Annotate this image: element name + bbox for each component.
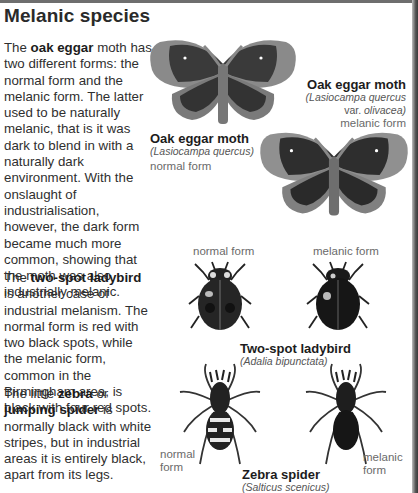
ladybird-title: Two-spot ladybird [240, 342, 380, 355]
moth-melanic-variety: var. olivacea) [300, 104, 406, 117]
spider-paragraph: The little zebra or jumping spider is no… [4, 386, 154, 484]
moth-melanic-scientific-name: (Lasiocampa quercus [300, 91, 406, 104]
oak-eggar-moth-melanic-illustration [148, 36, 298, 126]
spider-scientific-name: (Salticus scenicus) [242, 481, 372, 493]
ladybird-normal-form-label: normal form [193, 245, 254, 258]
oak-eggar-paragraph: The oak eggar moth has two different for… [4, 40, 152, 301]
spider-normal-form-label: normal form [160, 448, 195, 474]
ladybird-melanic-form-label: melanic form [313, 245, 379, 258]
top-rule [0, 0, 412, 3]
page-edge [412, 0, 418, 493]
moth-normal-form-label: normal form [150, 160, 260, 173]
two-spot-ladybird-normal-illustration [185, 258, 255, 338]
spider-caption: Zebra spider (Salticus scenicus) [242, 468, 372, 493]
oak-eggar-moth-normal-illustration [258, 128, 410, 220]
moth-normal-scientific-name: (Lasiocampa quercus) [150, 145, 260, 158]
spider-title: Zebra spider [242, 468, 372, 481]
moth-melanic-caption: Oak eggar moth (Lasiocampa quercus var. … [300, 78, 406, 130]
two-spot-ladybird-melanic-illustration [303, 258, 373, 338]
moth-normal-title: Oak eggar moth [150, 132, 260, 145]
moth-melanic-title: Oak eggar moth [300, 78, 406, 91]
moth-normal-caption: Oak eggar moth (Lasiocampa quercus) norm… [150, 132, 260, 173]
page-title: Melanic species [4, 5, 150, 27]
